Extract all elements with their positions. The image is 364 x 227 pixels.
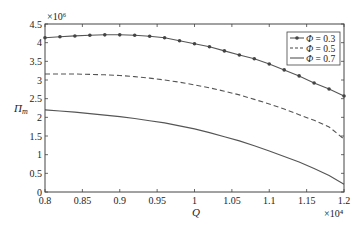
data-marker xyxy=(103,33,107,37)
x-tick-label: 0.9 xyxy=(114,195,127,206)
y-axis-label: Πm xyxy=(13,102,28,116)
data-marker xyxy=(178,39,182,43)
legend-marker xyxy=(295,36,299,40)
data-marker xyxy=(148,35,152,39)
data-marker xyxy=(282,68,286,72)
y-tick-label: 0 xyxy=(37,187,42,198)
data-marker xyxy=(118,33,122,37)
data-marker xyxy=(163,36,167,40)
data-marker xyxy=(208,45,212,49)
data-marker xyxy=(312,81,316,85)
data-marker xyxy=(267,62,271,66)
data-marker xyxy=(58,35,62,39)
y-tick-label: 1 xyxy=(37,149,42,160)
y-tick-label: 2 xyxy=(37,112,42,123)
x-tick-label: 1.05 xyxy=(223,195,241,206)
y-tick-label: 2.5 xyxy=(30,93,43,104)
data-marker xyxy=(238,53,242,57)
series-line-3 xyxy=(45,110,344,184)
y-tick-label: 4 xyxy=(37,37,42,48)
data-marker xyxy=(297,74,301,78)
data-marker xyxy=(327,87,331,91)
legend-label: Φ = 0.5 xyxy=(306,44,335,54)
y-tick-label: 3.5 xyxy=(30,56,43,67)
legend-label: Φ = 0.7 xyxy=(306,54,335,64)
y-tick-label: 3 xyxy=(37,75,42,86)
data-marker xyxy=(253,57,257,61)
y-tick-label: 4.5 xyxy=(30,19,43,30)
x-tick-label: 1.1 xyxy=(263,195,276,206)
x-tick-label: 0.95 xyxy=(148,195,166,206)
x-tick-label: 0.85 xyxy=(74,195,92,206)
data-marker xyxy=(133,33,137,37)
x-axis-label: Q xyxy=(192,206,200,218)
data-marker xyxy=(193,42,197,46)
y-multiplier: ×10⁶ xyxy=(47,11,67,22)
x-multiplier: ×10⁴ xyxy=(324,208,344,219)
legend: Φ = 0.3Φ = 0.5Φ = 0.7 xyxy=(287,32,340,65)
line-chart: 0.80.850.90.9511.051.11.151.2 00.511.522… xyxy=(0,0,364,227)
x-tick-label: 1.15 xyxy=(298,195,316,206)
x-tick-label: 1.2 xyxy=(338,195,351,206)
legend-label: Φ = 0.3 xyxy=(306,34,335,44)
x-tick-label: 1 xyxy=(192,195,197,206)
y-tick-label: 1.5 xyxy=(30,131,43,142)
data-marker xyxy=(73,34,77,38)
data-marker xyxy=(223,49,227,53)
data-marker xyxy=(88,33,92,37)
y-tick-label: 0.5 xyxy=(30,168,43,179)
